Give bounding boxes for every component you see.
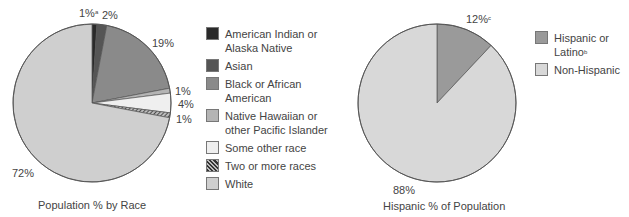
label-hispanic: 12%c (466, 13, 491, 25)
label-american-indian: 1%a (79, 7, 98, 19)
hispanic-chart-title: Hispanic % of Population (383, 200, 505, 212)
legend-item-white: White (206, 177, 345, 191)
label-non-hispanic: 88% (393, 184, 415, 196)
race-chart-title: Population % by Race (38, 199, 146, 211)
legend-item-two-or-more: Two or more races (206, 159, 345, 173)
legend-swatch (206, 109, 219, 122)
label-other: 4% (178, 98, 194, 110)
legend-swatch (206, 141, 219, 154)
label-two-or-more: 1% (176, 113, 192, 125)
legend-item-nhpi: Native Hawaiian or other Pacific Islande… (206, 109, 345, 137)
legend-item-some-other: Some other race (206, 141, 345, 155)
legend-item-non-hispanic: Non-Hispanic (535, 63, 629, 77)
legend-swatch (206, 77, 219, 90)
legend-item-hispanic: Hispanic or Latinob (535, 31, 629, 59)
legend-swatch (206, 59, 219, 72)
legend-swatch (535, 63, 548, 76)
label-white: 72% (12, 167, 34, 179)
pie-slice (358, 24, 516, 182)
race-pie-chart (13, 24, 171, 182)
label-black: 19% (152, 37, 174, 49)
label-nhpi: 1% (175, 85, 191, 97)
legend-swatch (206, 27, 219, 40)
legend-swatch (206, 177, 219, 190)
hispanic-pie-chart (358, 24, 516, 182)
legend-swatch-hatched (206, 159, 219, 172)
legend-item-black: Black or African American (206, 77, 345, 105)
label-asian: 2% (102, 9, 118, 21)
legend-item-asian: Asian (206, 59, 345, 73)
legend-item-american-indian: American Indian or Alaska Native (206, 27, 345, 55)
race-legend: American Indian or Alaska Native Asian B… (206, 27, 345, 195)
legend-swatch (535, 31, 548, 44)
hispanic-legend: Hispanic or Latinob Non-Hispanic (535, 31, 629, 81)
